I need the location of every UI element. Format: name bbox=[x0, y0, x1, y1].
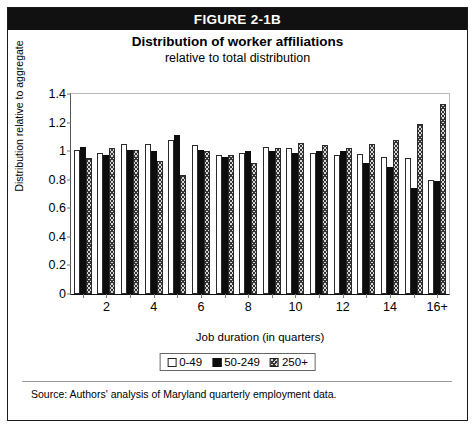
y-axis-tick-mark bbox=[67, 236, 71, 237]
y-axis-tick-label: 0.8 bbox=[49, 173, 66, 187]
x-axis-tick-label: 10 bbox=[288, 300, 302, 314]
x-axis-label: Job duration (in quarters) bbox=[70, 331, 450, 343]
bar-group bbox=[213, 94, 237, 294]
x-axis-tick-label: 8 bbox=[245, 300, 252, 314]
source-divider bbox=[22, 381, 452, 382]
y-axis-tick-mark bbox=[67, 94, 71, 95]
y-axis-tick-label: 1 bbox=[59, 144, 66, 158]
legend-label: 250+ bbox=[282, 356, 308, 368]
bar bbox=[86, 158, 92, 294]
legend-item: 0-49 bbox=[167, 356, 202, 368]
x-axis-tick-mark bbox=[106, 294, 107, 298]
x-axis-tick-mark bbox=[390, 294, 391, 298]
legend-swatch-icon bbox=[167, 358, 176, 367]
y-axis-tick-label: 0 bbox=[59, 287, 66, 301]
x-axis-tick-mark bbox=[272, 294, 273, 298]
bar-group bbox=[402, 94, 426, 294]
y-axis-label: Distribution relative to aggregate bbox=[13, 6, 25, 226]
y-axis-tick-label: 0.4 bbox=[49, 230, 66, 244]
bar bbox=[228, 155, 234, 294]
legend-swatch-icon bbox=[212, 358, 221, 367]
bar bbox=[204, 151, 210, 294]
y-axis-tick-mark bbox=[67, 208, 71, 209]
bar bbox=[393, 140, 399, 294]
legend-label: 0-49 bbox=[179, 356, 202, 368]
x-axis-tick-mark bbox=[366, 294, 367, 298]
bar-group bbox=[118, 94, 142, 294]
y-axis-tick-mark bbox=[67, 179, 71, 180]
bar bbox=[157, 161, 163, 294]
figure-2-1b: FIGURE 2-1B Distribution of worker affil… bbox=[0, 0, 475, 429]
bar bbox=[275, 148, 281, 294]
legend-label: 50-249 bbox=[224, 356, 260, 368]
bar bbox=[322, 145, 328, 294]
bar-group bbox=[71, 94, 95, 294]
legend-item: 250+ bbox=[270, 356, 308, 368]
x-axis-tick-mark bbox=[130, 294, 131, 298]
bar-group bbox=[284, 94, 308, 294]
y-axis-tick-mark bbox=[67, 294, 71, 295]
bar-group bbox=[166, 94, 190, 294]
y-axis-tick-mark bbox=[67, 151, 71, 152]
bar-group bbox=[307, 94, 331, 294]
x-axis-tick-mark bbox=[83, 294, 84, 298]
x-axis-tick-mark bbox=[437, 294, 438, 298]
bar bbox=[251, 163, 257, 294]
y-axis-tick-label: 1.2 bbox=[49, 116, 66, 130]
bars-container bbox=[71, 94, 449, 294]
x-axis-tick-mark bbox=[154, 294, 155, 298]
x-axis-tick-mark bbox=[319, 294, 320, 298]
x-axis-tick-mark bbox=[295, 294, 296, 298]
x-axis-tick-mark bbox=[414, 294, 415, 298]
chart-legend: 0-4950-249250+ bbox=[159, 353, 316, 371]
bar-group bbox=[189, 94, 213, 294]
bar-group bbox=[331, 94, 355, 294]
y-axis-tick-mark bbox=[67, 122, 71, 123]
bar bbox=[417, 124, 423, 294]
legend-item: 50-249 bbox=[212, 356, 260, 368]
bar bbox=[133, 150, 139, 294]
bar-group bbox=[378, 94, 402, 294]
legend-swatch-icon bbox=[270, 358, 279, 367]
bar bbox=[440, 104, 446, 294]
x-axis-tick-mark bbox=[201, 294, 202, 298]
bar-group bbox=[236, 94, 260, 294]
x-axis-tick-label: 2 bbox=[103, 300, 110, 314]
bar-group bbox=[355, 94, 379, 294]
y-axis-tick-label: 0.6 bbox=[49, 201, 66, 215]
x-axis-tick-label: 12 bbox=[336, 300, 350, 314]
x-axis-tick-mark bbox=[248, 294, 249, 298]
x-axis-tick-mark bbox=[343, 294, 344, 298]
x-axis-tick-mark bbox=[225, 294, 226, 298]
bar bbox=[369, 144, 375, 294]
bar bbox=[298, 143, 304, 294]
source-note: Source: Authors' analysis of Maryland qu… bbox=[31, 388, 337, 400]
bar-group bbox=[142, 94, 166, 294]
x-axis-tick-label: 14 bbox=[383, 300, 397, 314]
bar-group bbox=[95, 94, 119, 294]
y-axis-tick-label: 0.2 bbox=[49, 258, 66, 272]
plot-wrapper: Distribution relative to aggregate 00.20… bbox=[0, 0, 475, 429]
x-axis-tick-label: 6 bbox=[197, 300, 204, 314]
x-axis-tick-mark bbox=[177, 294, 178, 298]
y-axis-tick-label: 1.4 bbox=[49, 87, 66, 101]
plot-area: 00.20.40.60.811.21.4246810121416+ bbox=[70, 93, 450, 295]
bar bbox=[346, 148, 352, 294]
bar bbox=[180, 175, 186, 294]
x-axis-tick-label: 16+ bbox=[427, 300, 448, 314]
bar-group bbox=[425, 94, 449, 294]
y-axis-tick-mark bbox=[67, 265, 71, 266]
bar bbox=[109, 148, 115, 294]
bar-group bbox=[260, 94, 284, 294]
x-axis-tick-label: 4 bbox=[150, 300, 157, 314]
